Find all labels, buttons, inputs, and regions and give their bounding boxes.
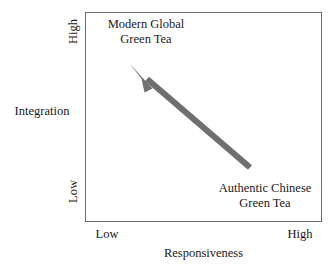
annotation-modern-line-1: Modern Global [100,17,192,32]
annotation-authentic-line-1: Authentic Chinese [210,181,320,196]
annotation-authentic-line-2: Green Tea [210,196,320,211]
annotation-modern-global-green-tea: Modern Global Green Tea [100,17,192,46]
annotation-modern-line-2: Green Tea [100,32,192,47]
x-axis-tick-low: Low [82,227,132,241]
x-axis-tick-high: High [277,227,323,241]
y-axis-tick-low: Low [67,172,80,212]
y-axis-title: Integration [4,104,80,118]
chart-figure: Integration High Low Low High Responsive… [0,0,336,268]
annotation-authentic-chinese-green-tea: Authentic Chinese Green Tea [210,181,320,210]
y-axis-tick-high: High [67,10,80,54]
x-axis-title: Responsiveness [85,246,322,260]
